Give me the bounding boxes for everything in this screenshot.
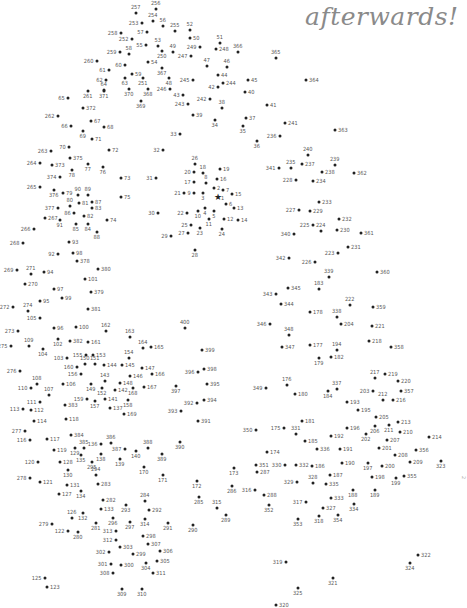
- dot-point: [286, 384, 289, 387]
- dot-number-label: 201: [382, 445, 392, 451]
- dot-point: [187, 232, 190, 235]
- dot-number-label: 2: [217, 185, 220, 191]
- dot-number-label: 328: [308, 474, 318, 480]
- dot-point: [120, 32, 123, 35]
- dot-point: [330, 497, 333, 500]
- dot-number-label: 191: [343, 446, 353, 452]
- dot-point: [316, 448, 319, 451]
- dot-point: [39, 186, 42, 189]
- dot-point: [283, 427, 286, 430]
- dot-point: [186, 212, 189, 215]
- dot-point: [397, 421, 400, 424]
- dot-number-label: 1: [221, 195, 224, 201]
- dot-point: [428, 436, 431, 439]
- dot-number-label: 303: [123, 544, 133, 550]
- dot-number-label: 141: [108, 396, 118, 402]
- dot-number-label: 369: [136, 103, 146, 109]
- dot-number-label: 261: [83, 93, 93, 99]
- dot-number-label: 364: [309, 77, 319, 83]
- dot-number-label: 240: [303, 146, 313, 152]
- dot-number-label: 236: [267, 133, 277, 139]
- dot-point: [91, 207, 94, 210]
- dot-point: [155, 177, 158, 180]
- dot-number-label: 195: [361, 407, 371, 413]
- dot-point: [288, 257, 291, 260]
- dot-point: [336, 349, 339, 352]
- dot-point: [346, 427, 349, 430]
- dot-number-label: 269: [4, 267, 14, 273]
- dot-point: [237, 219, 240, 222]
- dot-point: [75, 326, 78, 329]
- dot-number-label: 137: [113, 405, 123, 411]
- dot-number-label: 399: [205, 347, 215, 353]
- dot-point: [307, 154, 310, 157]
- dot-point: [179, 133, 182, 136]
- dot-number-label: 89: [85, 186, 91, 192]
- dot-number-label: 299: [136, 551, 146, 557]
- dot-point: [217, 86, 220, 89]
- dot-number-label: 186: [315, 463, 325, 469]
- dot-number-label: 284: [140, 492, 150, 498]
- dot-number-label: 342: [276, 255, 286, 261]
- dot-number-label: 102: [53, 341, 63, 347]
- dot-point: [119, 546, 122, 549]
- dot-point: [30, 387, 33, 390]
- dot-point: [381, 465, 384, 468]
- dot-number-label: 93: [72, 239, 78, 245]
- dot-number-label: 275: [0, 343, 7, 349]
- dot-number-label: 400: [180, 319, 190, 325]
- dot-point: [279, 135, 282, 138]
- dot-point: [190, 224, 193, 227]
- dot-point: [386, 439, 389, 442]
- dot-number-label: 149: [86, 386, 96, 392]
- dot-point: [415, 449, 418, 452]
- dot-point: [36, 383, 39, 386]
- dot-number-label: 226: [302, 259, 312, 265]
- dot-point: [275, 293, 278, 296]
- dot-point: [39, 401, 42, 404]
- dot-number-label: 4: [203, 210, 206, 216]
- dot-point: [281, 346, 284, 349]
- dot-number-label: 51: [217, 34, 223, 40]
- dot-number-label: 9: [188, 190, 191, 196]
- dot-point: [340, 323, 343, 326]
- dot-number-label: 22: [177, 210, 183, 216]
- dot-number-label: 334: [349, 506, 359, 512]
- dot-number-label: 229: [313, 208, 323, 214]
- dot-point: [16, 269, 19, 272]
- dot-number-label: 393: [168, 408, 178, 414]
- dot-number-label: 366: [233, 43, 243, 49]
- dot-number-label: 316: [242, 487, 252, 493]
- dot-point: [62, 383, 65, 386]
- dot-number-label: 305: [160, 558, 170, 564]
- dot-point: [318, 201, 321, 204]
- dot-point: [309, 311, 312, 314]
- dot-point: [76, 366, 79, 369]
- dot-number-label: 209: [413, 459, 423, 465]
- dot-number-label: 279: [39, 521, 49, 527]
- dot-number-label: 110: [18, 385, 28, 391]
- dot-point: [46, 586, 49, 589]
- dot-point: [65, 418, 68, 421]
- dot-number-label: 264: [27, 160, 37, 166]
- dot-point: [112, 572, 115, 575]
- dot-point: [29, 477, 32, 480]
- dot-number-label: 312: [103, 537, 113, 543]
- dot-number-label: 340: [281, 231, 291, 237]
- dot-number-label: 43: [173, 92, 179, 98]
- dot-number-label: 263: [38, 148, 48, 154]
- dot-point: [97, 483, 100, 486]
- dot-point: [115, 539, 118, 542]
- dot-point: [96, 60, 99, 63]
- dot-number-label: 134: [76, 493, 86, 499]
- dot-number-label: 128: [63, 459, 73, 465]
- dot-number-label: 204: [344, 321, 354, 327]
- dot-point: [290, 167, 293, 170]
- dot-number-label: 221: [375, 323, 385, 329]
- dot-point: [312, 224, 315, 227]
- dot-point: [146, 31, 149, 34]
- dot-number-label: 41: [270, 102, 276, 108]
- dot-number-label: 155: [73, 352, 83, 358]
- dot-number-label: 293: [121, 507, 131, 513]
- dot-number-label: 367: [157, 70, 167, 76]
